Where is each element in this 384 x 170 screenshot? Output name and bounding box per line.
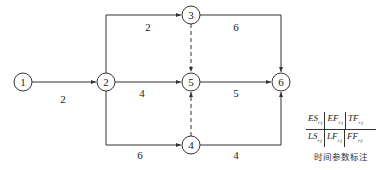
duration-4-6: 4 <box>233 149 239 161</box>
legend-top-row: ESi-j EFi-j TFi-j <box>306 112 376 130</box>
node-5-label: 5 <box>188 76 194 88</box>
node-2-label: 2 <box>103 76 109 88</box>
node-2: 2 <box>97 73 115 91</box>
legend-tf: TFi-j <box>345 112 365 129</box>
node-3-label: 3 <box>188 9 194 21</box>
edge-3-6 <box>200 15 281 72</box>
node-1: 1 <box>14 73 32 91</box>
node-4: 4 <box>182 136 200 154</box>
legend-es: ESi-j <box>306 112 324 129</box>
edge-2-4 <box>106 91 181 145</box>
duration-3-6: 6 <box>233 21 239 33</box>
edge-4-6 <box>200 92 281 145</box>
legend-ef: EFi-j <box>324 112 344 129</box>
node-3: 3 <box>182 6 200 24</box>
legend-caption: 时间参数标注 <box>306 150 376 162</box>
node-6: 6 <box>272 73 290 91</box>
duration-1-2: 2 <box>60 93 66 105</box>
time-parameter-legend: ESi-j EFi-j TFi-j LSi-j LFi-j FFi-j 时间参数… <box>306 112 376 162</box>
duration-2-4: 6 <box>137 149 143 161</box>
legend-bottom-row: LSi-j LFi-j FFi-j <box>306 130 376 147</box>
node-4-label: 4 <box>188 139 194 151</box>
duration-2-5: 4 <box>139 87 145 99</box>
duration-5-6: 5 <box>233 87 239 99</box>
edge-2-3 <box>106 15 181 73</box>
duration-2-3: 2 <box>145 21 151 33</box>
node-5: 5 <box>182 73 200 91</box>
legend-ls: LSi-j <box>306 130 324 147</box>
node-1-label: 1 <box>20 76 26 88</box>
legend-ff: FFi-j <box>344 130 364 147</box>
node-6-label: 6 <box>278 76 284 88</box>
legend-lf: LFi-j <box>324 130 344 147</box>
